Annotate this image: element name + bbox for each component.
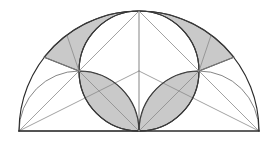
right-upper-chord	[139, 11, 199, 71]
geometric-figure-svg: Semicircular geometric construction with…	[0, 0, 278, 141]
geometric-figure-container: Semicircular geometric construction with…	[0, 0, 278, 141]
right-lower-chord	[199, 71, 259, 131]
left-upper-chord	[79, 11, 139, 71]
left-lower-chord	[19, 71, 79, 131]
